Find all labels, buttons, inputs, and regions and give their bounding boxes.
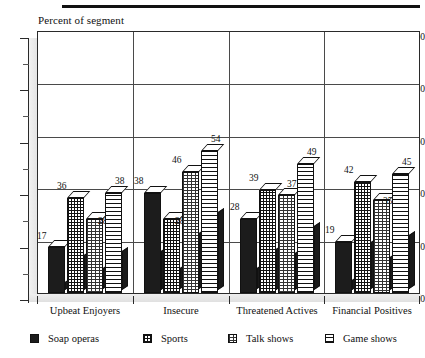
- bar-value-label: 38: [134, 176, 144, 186]
- bar-top-face: [201, 144, 224, 151]
- bar-top-face: [105, 186, 128, 193]
- bar-value-label: 42: [344, 165, 354, 175]
- bar-face: [67, 198, 84, 293]
- category-tick-1: [133, 296, 134, 304]
- bar-face: [182, 172, 199, 293]
- legend-label: Talk shows: [246, 333, 293, 344]
- bar-face: [105, 193, 122, 293]
- y-tick-major-60: [20, 143, 29, 144]
- legend-item-game-shows[interactable]: Game shows: [325, 333, 397, 344]
- y-tick-minor-50: [23, 169, 29, 170]
- bar-sports[interactable]: 39: [259, 190, 276, 293]
- y-tick-minor-30: [23, 221, 29, 222]
- bar-face: [163, 219, 180, 293]
- bar-value-label: 46: [172, 155, 182, 165]
- y-tick-major-100: [20, 38, 29, 39]
- y-tick-minor-10: [23, 274, 29, 275]
- bar-sports[interactable]: 36: [67, 198, 84, 293]
- bar-top-face: [392, 167, 415, 174]
- category-label-financial-positives: Financial Positives: [324, 305, 420, 316]
- category-label-upbeat-enjoyers: Upbeat Enjoyers: [37, 305, 133, 316]
- category-tick-2: [229, 296, 230, 304]
- y-tick-label-0: 0: [401, 294, 425, 304]
- bar-face: [259, 190, 276, 293]
- category-tick-4: [419, 296, 420, 304]
- bar-value-label: 38: [115, 176, 125, 186]
- y-tick-major-40: [20, 195, 29, 196]
- plot-left-wall: [29, 38, 37, 301]
- bar-face: [354, 182, 371, 293]
- bar-group-upbeat-enjoyers: 17 36 28 38: [38, 32, 133, 293]
- bar-value-label: 28: [230, 202, 240, 212]
- bar-top-face: [297, 157, 320, 164]
- bar-value-label: 36: [57, 181, 67, 191]
- bar-top-face: [67, 191, 90, 198]
- bar-side-face: [314, 222, 320, 290]
- bar-value-label: 49: [307, 147, 317, 157]
- legend-label: Game shows: [343, 333, 397, 344]
- bar-side-face: [409, 231, 415, 289]
- bar-game-shows[interactable]: 54: [201, 151, 218, 293]
- legend-label: Sports: [161, 333, 188, 344]
- bar-talk-shows[interactable]: 37: [278, 195, 295, 293]
- bar-face: [240, 219, 257, 293]
- category-tick-3: [324, 296, 325, 304]
- bar-value-label: 54: [211, 134, 221, 144]
- bar-face: [335, 242, 352, 293]
- legend-label: Soap operas: [48, 333, 99, 344]
- bar-face: [201, 151, 218, 293]
- bar-face: [297, 164, 314, 293]
- bar-game-shows[interactable]: 45: [392, 174, 409, 293]
- category-label-threatened-actives: Threatened Actives: [229, 305, 325, 316]
- bar-value-label: 37: [287, 179, 297, 189]
- bar-face: [392, 174, 409, 293]
- swatch-grid-icon: [143, 334, 152, 343]
- category-label-insecure: Insecure: [133, 305, 229, 316]
- swatch-dots-icon: [228, 334, 237, 343]
- bar-side-face: [122, 247, 128, 290]
- category-tick-0: [37, 296, 38, 304]
- bar-soap-operas[interactable]: 28: [240, 219, 257, 293]
- bar-value-label: 39: [249, 173, 259, 183]
- bar-top-face: [259, 183, 282, 190]
- y-tick-minor-90: [23, 64, 29, 65]
- bar-game-shows[interactable]: 49: [297, 164, 314, 293]
- bar-side-face: [218, 208, 224, 290]
- legend-item-soap-operas[interactable]: Soap operas: [30, 333, 99, 344]
- bar-value-label: 17: [37, 231, 47, 241]
- swatch-solid-dark-icon: [30, 334, 39, 343]
- bar-sports[interactable]: 42: [354, 182, 371, 293]
- bar-face: [144, 193, 161, 293]
- bar-top-face: [144, 186, 167, 193]
- bar-soap-operas[interactable]: 19: [335, 242, 352, 293]
- legend-item-talk-shows[interactable]: Talk shows: [228, 333, 293, 344]
- bar-face: [278, 195, 295, 293]
- bar-face: [48, 247, 65, 293]
- bar-value-label: 19: [325, 225, 335, 235]
- bar-group-insecure: 38 28 46 54: [134, 32, 229, 293]
- bar-face: [86, 219, 103, 293]
- y-tick-minor-70: [23, 116, 29, 117]
- bar-game-shows[interactable]: 38: [105, 193, 122, 293]
- bar-group-financial-positives: 19 42 35 45: [325, 32, 420, 293]
- bar-face: [373, 200, 390, 293]
- y-tick-major-0: [20, 300, 29, 301]
- bar-soap-operas[interactable]: 38: [144, 193, 161, 293]
- bar-soap-operas[interactable]: 17: [48, 247, 65, 293]
- bar-talk-shows[interactable]: 28: [86, 219, 103, 293]
- y-tick-major-80: [20, 90, 29, 91]
- chart-axis-title: Percent of segment: [38, 14, 124, 26]
- plot-floor: [29, 294, 421, 302]
- bar-chart: Percent of segment 100 80 60 40 20 0: [0, 0, 425, 358]
- y-tick-major-20: [20, 248, 29, 249]
- plot-area: 17 36 28 38: [37, 31, 420, 294]
- swatch-hlines-icon: [325, 334, 334, 343]
- bar-talk-shows[interactable]: 35: [373, 200, 390, 293]
- chart-legend: Soap operas Sports Talk shows Game shows: [0, 333, 425, 355]
- plot-wrapper: 100 80 60 40 20 0: [0, 26, 425, 301]
- bar-group-threatened-actives: 28 39 37 49: [230, 32, 325, 293]
- bar-talk-shows[interactable]: 46: [182, 172, 199, 293]
- bar-sports[interactable]: 28: [163, 219, 180, 293]
- bar-top-face: [354, 175, 377, 182]
- legend-item-sports[interactable]: Sports: [143, 333, 188, 344]
